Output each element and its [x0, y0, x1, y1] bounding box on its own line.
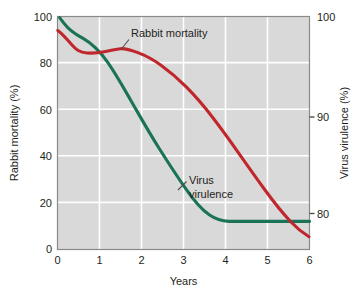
y-right-tick-100: 100	[317, 11, 335, 23]
y-axis-right: 100 90 80	[310, 11, 336, 220]
chart-figure: 100 80 60 40 20 0 100 90 80 0 1 2 3 4 5 …	[0, 0, 359, 296]
y-axis-left-title: Rabbit mortality (%)	[8, 85, 20, 182]
y-axis-right-title: Virus virulence (%)	[338, 87, 350, 179]
y-axis-left: 100 80 60 40 20 0	[34, 11, 52, 256]
y-left-tick-0: 0	[46, 243, 52, 255]
y-left-tick-100: 100	[34, 11, 52, 23]
x-tick-2: 2	[138, 254, 144, 266]
virus-virulence-annotation-label-line1: Virus	[189, 174, 214, 186]
y-left-tick-60: 60	[40, 104, 52, 116]
x-tick-5: 5	[264, 254, 270, 266]
y-right-tick-80: 80	[317, 208, 329, 220]
virus-virulence-annotation-label-line2: virulence	[189, 188, 233, 200]
y-right-tick-90: 90	[317, 111, 329, 123]
x-axis: 0 1 2 3 4 5 6	[54, 254, 312, 266]
x-tick-6: 6	[306, 254, 312, 266]
y-left-tick-40: 40	[40, 150, 52, 162]
y-left-tick-80: 80	[40, 57, 52, 69]
x-axis-title: Years	[170, 275, 198, 287]
y-left-tick-20: 20	[40, 197, 52, 209]
rabbit-mortality-annotation-label: Rabbit mortality	[131, 27, 208, 39]
x-tick-4: 4	[222, 254, 228, 266]
x-tick-0: 0	[54, 254, 60, 266]
x-tick-1: 1	[96, 254, 102, 266]
rabbit-mortality-virus-virulence-chart: 100 80 60 40 20 0 100 90 80 0 1 2 3 4 5 …	[0, 0, 359, 296]
x-tick-3: 3	[180, 254, 186, 266]
